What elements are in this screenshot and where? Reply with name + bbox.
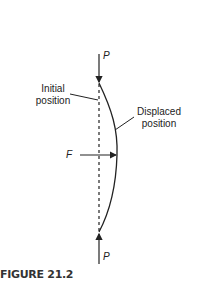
displaced-leader-line xyxy=(115,117,134,130)
column-diagram xyxy=(0,0,198,281)
figure-caption: FIGURE 21.2 xyxy=(0,268,73,281)
load-bottom-label: P xyxy=(103,251,110,263)
force-label: F xyxy=(66,149,72,161)
displaced-position-curve xyxy=(99,83,117,232)
initial-position-label: Initial position xyxy=(30,83,76,107)
displaced-position-label: Displaced position xyxy=(134,106,184,130)
load-top-label: P xyxy=(103,50,110,62)
